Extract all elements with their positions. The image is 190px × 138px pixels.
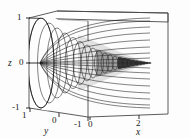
x-axis-label: x (136, 128, 140, 137)
y-axis-label: y (44, 127, 48, 136)
figure-3d-surface-plot: 1 z 0 -1 1 0 -1 y 0 2 x (0, 0, 190, 138)
y-tick-label-minus-1: -1 (74, 120, 82, 129)
plot-canvas (0, 0, 190, 138)
box-edge-bottom-left (29, 108, 88, 117)
z-tick-label-1: 1 (17, 13, 22, 22)
z-tick-label-0: 0 (19, 58, 24, 67)
surface-shading-mid (78, 35, 152, 91)
z-axis-label: z (8, 59, 12, 68)
box-edge-bottom-front (88, 114, 168, 117)
x-tick-label-0: 0 (88, 120, 93, 129)
z-tick-label-minus-1: -1 (12, 103, 20, 112)
surface-wireframe (28, 15, 152, 110)
y-tick-label-1: 1 (22, 111, 27, 120)
y-tick-label-0: 0 (52, 116, 57, 125)
